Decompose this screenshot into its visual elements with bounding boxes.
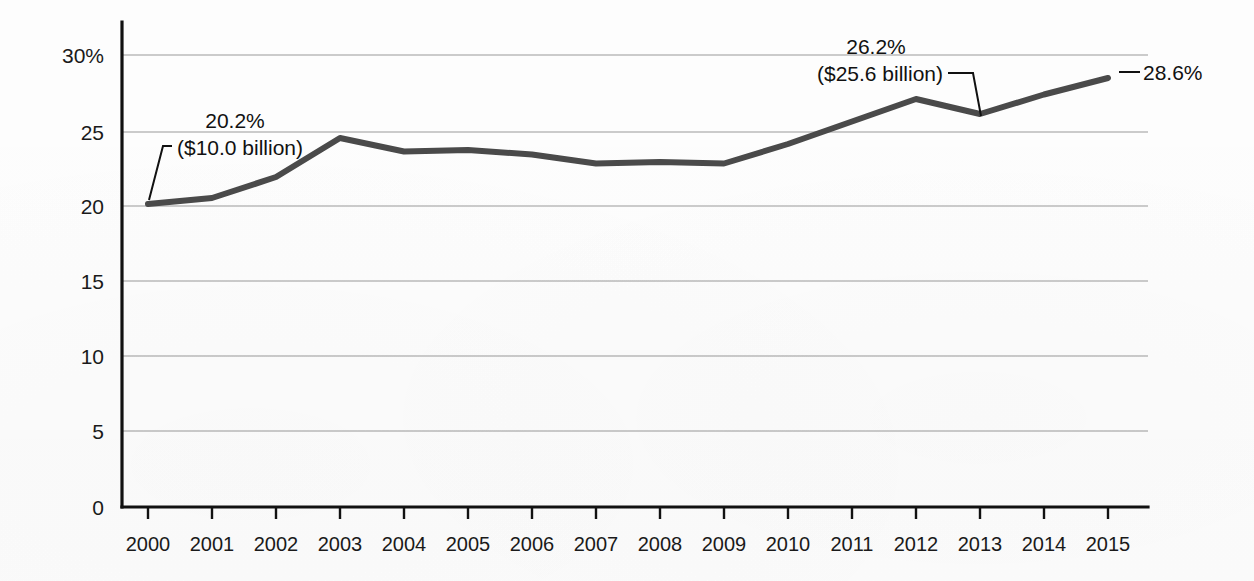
x-label-2014: 2014 — [1022, 533, 1067, 555]
x-label-2009: 2009 — [702, 533, 747, 555]
annotation-2013: 26.2% ($25.6 billion) — [817, 35, 943, 85]
x-label-2001: 2001 — [190, 533, 235, 555]
x-label-2015: 2015 — [1086, 533, 1131, 555]
x-label-2013: 2013 — [958, 533, 1003, 555]
leader-line-2000 — [149, 146, 172, 200]
x-label-2004: 2004 — [382, 533, 427, 555]
x-label-2000: 2000 — [126, 533, 171, 555]
y-label-5: 5 — [92, 420, 104, 443]
annotation-2000-amount: ($10.0 billion) — [177, 136, 303, 159]
annotation-2013-amount: ($25.6 billion) — [817, 62, 943, 85]
y-axis-labels: 30% 25 20 15 10 5 0 — [62, 44, 104, 519]
x-axis-labels: 2000 2001 2002 2003 2004 2005 2006 2007 … — [126, 533, 1131, 555]
annotation-2000-percent: 20.2% — [205, 109, 265, 132]
x-label-2002: 2002 — [254, 533, 299, 555]
y-label-15: 15 — [81, 270, 104, 293]
annotation-2000: 20.2% ($10.0 billion) — [177, 109, 303, 159]
annotation-2013-percent: 26.2% — [846, 35, 906, 58]
x-label-2007: 2007 — [574, 533, 619, 555]
x-label-2006: 2006 — [510, 533, 555, 555]
x-label-2003: 2003 — [318, 533, 363, 555]
x-label-2010: 2010 — [766, 533, 811, 555]
x-label-2005: 2005 — [446, 533, 491, 555]
x-label-2008: 2008 — [638, 533, 683, 555]
y-label-0: 0 — [92, 496, 104, 519]
x-label-2011: 2011 — [830, 533, 873, 555]
axes — [122, 22, 1148, 507]
annotation-2015-percent: 28.6% — [1143, 61, 1203, 84]
annotation-2015: 28.6% — [1143, 61, 1203, 84]
y-label-25: 25 — [81, 121, 104, 144]
x-label-2012: 2012 — [894, 533, 939, 555]
line-chart-plot: 30% 25 20 15 10 5 0 2000 2001 2002 2003 … — [0, 0, 1254, 581]
y-label-30: 30% — [62, 44, 104, 67]
y-label-10: 10 — [81, 345, 104, 368]
y-label-20: 20 — [81, 195, 104, 218]
x-tickmarks — [148, 507, 1108, 519]
chart-container: 30% 25 20 15 10 5 0 2000 2001 2002 2003 … — [0, 0, 1254, 581]
